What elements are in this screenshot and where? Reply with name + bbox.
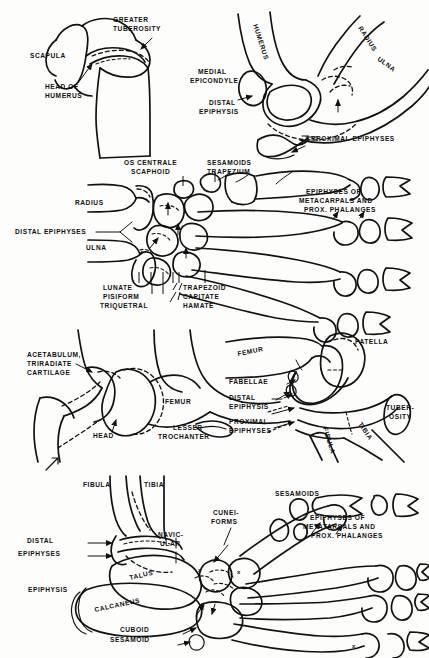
label-epiphyses-metacarpals-line1: EPIPHYSES OF xyxy=(306,188,361,195)
label-proximal-epiphyses-knee-line2: EPIPHYSES xyxy=(229,427,271,434)
label-proximal-epiphyses: PROXIMAL EPIPHYSES xyxy=(311,135,395,142)
label-ulna-hand: ULNA xyxy=(86,244,107,251)
label-os-centrale: OS CENTRALE xyxy=(124,159,177,166)
label-cuneiforms-line1: CUNEI- xyxy=(213,509,239,516)
label-epiphyses-metacarpals-line2: METACARPALS AND xyxy=(299,197,373,204)
label-epiphysis-foot: EPIPHYSIS xyxy=(28,586,68,593)
label-medial-epicondyle-line1: MEDIAL xyxy=(198,68,227,75)
label-acetabulum-line1: ACETABULUM, xyxy=(27,351,81,359)
label-fabellae: FABELLAE xyxy=(229,378,268,385)
label-distal-epiphyses-foot-line2: EPIPHYSES xyxy=(18,550,60,557)
label-proximal-epiphyses-knee-line1: PROXIMAL xyxy=(229,418,268,425)
label-navicular-line1: NAVIC- xyxy=(158,531,184,538)
label-greater-tuberosity-line1: GREATER xyxy=(113,16,149,23)
label-head-of-humerus-line1: HEAD OF xyxy=(45,83,79,90)
label-epiphyses-metacarpals-line3: PROX. PHALANGES xyxy=(304,206,376,213)
label-medial-epicondyle-line2: EPICONDYLE xyxy=(190,77,238,84)
label-distal-epiphysis-line1: DISTAL xyxy=(209,99,236,106)
label-capitate: CAPITATE xyxy=(183,293,219,300)
anatomical-figure: GREATER TUBEROSITY SCAPULA HEAD OF HUMER… xyxy=(0,0,429,658)
label-head: HEAD xyxy=(93,432,114,439)
label-epiphyses-metatarsals-line3: PROX. PHALANGES xyxy=(311,532,383,539)
label-pisiform: PISIFORM xyxy=(103,293,139,300)
label-distal-epiphyses-hand: DISTAL EPIPHYSES xyxy=(15,228,86,235)
label-acetabulum-line3: CARTILAGE xyxy=(27,369,70,376)
label-sesamoids: SESAMOIDS xyxy=(207,159,252,166)
label-sesamoid-foot: SESAMOID xyxy=(110,636,150,643)
label-trapezoid: TRAPEZOID xyxy=(183,284,226,291)
label-tuberosity-line1: TUBER- xyxy=(386,404,414,411)
label-scapula: SCAPULA xyxy=(30,52,66,59)
label-distal-epiphyses-foot-line1: DISTAL xyxy=(27,537,54,544)
label-distal-epiphysis-knee-line1: DISTAL xyxy=(229,394,256,401)
label-lunate: LUNATE xyxy=(103,284,133,291)
label-sesamoids-foot: SESAMOIDS xyxy=(275,490,320,497)
label-distal-epiphysis-knee-line2: EPIPHYSIS xyxy=(229,403,269,410)
label-cuboid: CUBOID xyxy=(120,626,149,633)
figure-canvas: GREATER TUBEROSITY SCAPULA HEAD OF HUMER… xyxy=(0,0,429,658)
label-lesser-trochanter-line1: LESSER xyxy=(173,424,203,431)
label-tibia-foot: TIBIA xyxy=(144,481,164,488)
label-greater-tuberosity-line2: TUBEROSITY xyxy=(113,25,161,32)
label-lesser-trochanter-line2: TROCHANTER xyxy=(158,433,210,440)
label-hamate: HAMATE xyxy=(183,302,214,309)
label-scaphoid: SCAPHOID xyxy=(131,168,170,175)
label-tuberosity-line2: OSITY xyxy=(389,413,412,420)
label-triquetral: TRIQUETRAL xyxy=(100,302,148,310)
label-acetabulum-line2: TRIRADIATE xyxy=(27,360,72,367)
label-navicular-line2: ULAR xyxy=(160,540,181,547)
label-trapezium: TRAPEZIUM xyxy=(207,168,250,175)
label-radius-hand: RADIUS xyxy=(75,199,104,206)
label-fibula-foot: FIBULA xyxy=(83,481,110,488)
label-head-of-humerus-line2: HUMERUS xyxy=(45,92,82,99)
label-cuneiforms-line2: FORMS xyxy=(211,518,238,525)
label-patella: PATELLA xyxy=(355,338,388,345)
label-epiphyses-metatarsals-line1: EPIPHYSES OF xyxy=(310,514,365,521)
label-epiphyses-metatarsals-line2: METATARSALS AND xyxy=(303,523,375,530)
mark-x-3: x xyxy=(352,643,356,649)
mark-x-2: x xyxy=(237,569,241,575)
label-femur-hip: FEMUR xyxy=(165,398,191,405)
mark-x-1: x xyxy=(198,567,202,573)
label-distal-epiphysis-line2: EPIPHYSIS xyxy=(199,108,239,115)
